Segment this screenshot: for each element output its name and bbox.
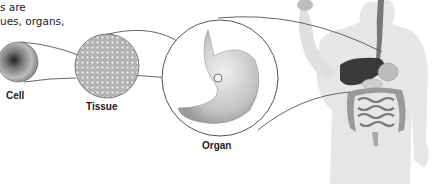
label-cell: Cell	[6, 90, 24, 101]
label-tissue: Tissue	[86, 101, 118, 112]
caption-line-2: ues, organs,	[0, 15, 64, 27]
cell-illustration	[0, 42, 38, 82]
human-body-illustration	[297, 0, 429, 184]
caption-line-1: s are	[0, 1, 26, 13]
organ-illustration	[162, 20, 278, 136]
label-organ: Organ	[202, 140, 231, 151]
levels-of-organization-figure	[0, 0, 432, 184]
tissue-illustration	[75, 34, 139, 98]
caption-text: s are ues, organs,	[0, 0, 64, 28]
